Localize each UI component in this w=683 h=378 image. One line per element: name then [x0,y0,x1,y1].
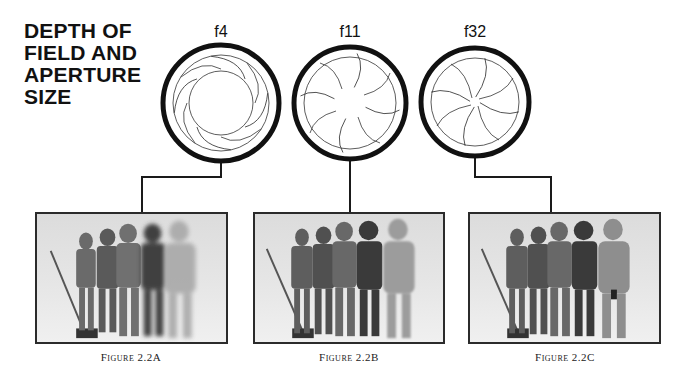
armor-figures-image [255,214,443,342]
armor-figures-image [37,214,226,342]
figure-photo-a [35,212,228,344]
connector-c [475,158,551,213]
aperture-f11-icon [294,47,406,159]
figure-caption-a: Figure 2.2A [101,351,162,363]
armor-figures-image [470,214,659,342]
aperture-f32-icon [421,48,529,156]
figure-caption-c: Figure 2.2C [535,351,595,363]
figure-photo-c [468,212,661,344]
figure-photo-b [253,212,445,344]
figure-caption-b: Figure 2.2B [319,351,379,363]
connector-a [142,160,221,213]
aperture-f4-icon [163,45,279,161]
connector-lines [142,158,551,213]
